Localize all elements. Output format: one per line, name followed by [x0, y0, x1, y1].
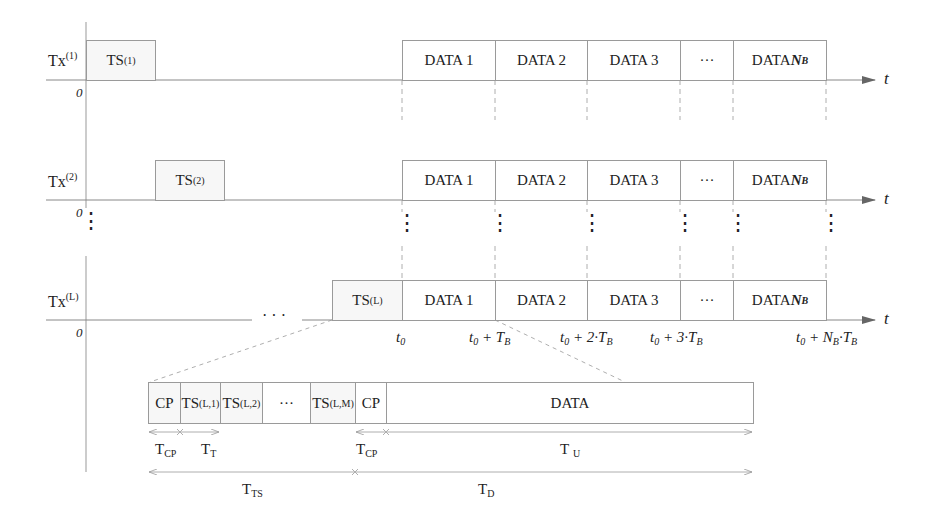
row2-ellipsis: ···: [680, 160, 734, 201]
detail-cp-2: CP: [355, 382, 387, 424]
rowL-data-3: DATA 3: [587, 280, 681, 321]
row1-ellipsis: ···: [680, 40, 734, 81]
txL-origin: 0: [76, 326, 83, 339]
tx2-label: Tx(2): [48, 172, 77, 190]
duration-tts: TTS: [242, 482, 263, 499]
duration-tt: TT: [201, 442, 216, 459]
row2-data-nb: DATA NB: [733, 160, 827, 201]
row1-data-1: DATA 1: [402, 40, 496, 81]
tick-t0-plus-3tb: t0 + 3·TB: [650, 330, 703, 347]
vertical-ellipsis-left: ⋮: [80, 210, 102, 232]
axis-t-L: t: [884, 310, 889, 327]
vertical-ellipsis-6: ⋮: [820, 212, 842, 234]
row2-data-1: DATA 1: [402, 160, 496, 201]
vertical-ellipsis-1: ⋮: [396, 212, 418, 234]
duration-td: TD: [478, 482, 494, 499]
tx1-label: Tx(1): [48, 51, 77, 69]
detail-ts-l1: TS(L,1): [180, 382, 221, 424]
ts2-block: TS(2): [155, 160, 225, 201]
detail-cp-1: CP: [148, 382, 181, 424]
rowL-data-nb: DATA NB: [733, 280, 827, 321]
vertical-ellipsis-2: ⋮: [489, 212, 511, 234]
tsL-block: TS(L): [332, 280, 403, 321]
detail-ellipsis: ···: [262, 382, 311, 424]
rowL-data-1: DATA 1: [402, 280, 496, 321]
row2-data-3: DATA 3: [587, 160, 681, 201]
vertical-ellipsis-5: ⋮: [727, 212, 749, 234]
txL-label: Tx(L): [48, 292, 79, 310]
detail-data: DATA: [386, 382, 754, 424]
row1-data-nb: DATA NB: [733, 40, 827, 81]
tick-t0-plus-tb: t0 + TB: [469, 330, 510, 347]
row1-data-3: DATA 3: [587, 40, 681, 81]
tx1-origin: 0: [76, 86, 83, 99]
row2-data-2: DATA 2: [495, 160, 588, 201]
duration-tcp-2: TCP: [356, 442, 377, 459]
tick-t0: t0: [396, 330, 405, 347]
duration-tu: T U: [560, 442, 580, 459]
detail-ts-l2: TS(L,2): [220, 382, 263, 424]
horizontal-ellipsis: · · ·: [262, 308, 286, 324]
row1-data-2: DATA 2: [495, 40, 588, 81]
zoom-line-left: [150, 320, 332, 382]
tick-t0-plus-nbtb: t0 + NB·TB: [796, 330, 857, 347]
axis-t-1: t: [884, 70, 889, 87]
duration-tcp-1: TCP: [155, 442, 176, 459]
detail-ts-lm: TS(L,M): [310, 382, 356, 424]
rowL-data-2: DATA 2: [495, 280, 588, 321]
rowL-ellipsis: ···: [680, 280, 734, 321]
vertical-ellipsis-3: ⋮: [581, 212, 603, 234]
axis-t-2: t: [884, 190, 889, 207]
tick-t0-plus-2tb: t0 + 2·TB: [560, 330, 613, 347]
vertical-ellipsis-4: ⋮: [674, 212, 696, 234]
ts1-block: TS(1): [86, 40, 156, 81]
